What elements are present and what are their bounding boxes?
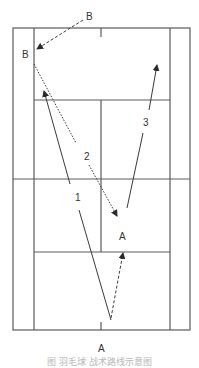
shot-2-label: 2 xyxy=(84,151,90,162)
player-a-mid-label: A xyxy=(119,231,126,242)
shot-1-label: 1 xyxy=(75,192,81,203)
figure-caption: 图 羽毛球 战术路线示意图 xyxy=(0,355,199,368)
player-a-bottom-label: A xyxy=(98,343,105,354)
shot-2-arrow-lower xyxy=(89,165,117,216)
shot-3-arrow-upper xyxy=(149,65,157,110)
shot-3-arrow-lower xyxy=(127,133,143,208)
player-b-side-label: B xyxy=(22,49,29,60)
shot-3-label: 3 xyxy=(143,117,149,128)
player-b-top-label: B xyxy=(86,11,93,22)
court xyxy=(13,28,190,330)
shot-a-dashed-arrow xyxy=(111,253,123,318)
shot-1-arrow-upper xyxy=(44,91,70,184)
shot-1-arrow-lower xyxy=(79,210,111,320)
shots xyxy=(34,20,157,320)
labels: B B A A 1 2 3 xyxy=(22,11,149,354)
shot-b-dashed-arrow xyxy=(37,20,83,49)
